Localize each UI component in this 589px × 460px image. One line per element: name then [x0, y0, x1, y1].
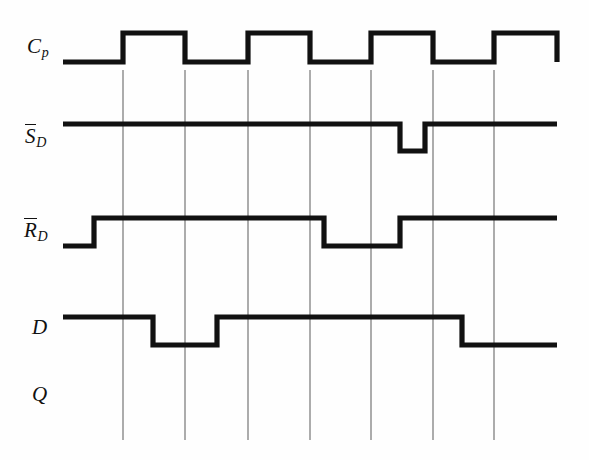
signal-label-data: D — [32, 317, 47, 338]
signal-label-clock: Cp — [27, 36, 49, 60]
timing-diagram-figure: Cp SD RD D Q — [0, 0, 589, 460]
signal-label-reset-bar-subscript: D — [38, 229, 48, 244]
signal-label-clock-subscript: p — [42, 45, 49, 60]
signal-label-output: Q — [32, 384, 47, 405]
signal-label-set-bar: SD — [25, 124, 47, 150]
timing-diagram-canvas — [0, 0, 589, 460]
signal-label-set-bar-base: S — [25, 124, 36, 147]
signal-label-reset-bar-base: R — [24, 218, 37, 241]
signal-label-reset-bar: RD — [24, 218, 48, 244]
signal-label-output-base: Q — [32, 384, 47, 405]
signal-label-clock-base: C — [27, 36, 41, 57]
signal-label-set-bar-subscript: D — [36, 135, 46, 150]
signal-label-data-base: D — [32, 317, 47, 338]
waveform-cp — [63, 33, 557, 62]
